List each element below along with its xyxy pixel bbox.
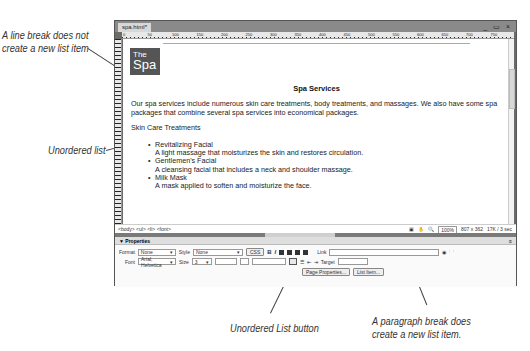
ruler-mark: 150 [196, 32, 221, 37]
spa-logo: The Spa [130, 48, 160, 75]
align-right-icon[interactable] [295, 250, 300, 255]
target-label: Target [321, 259, 335, 265]
format-select[interactable]: None▾ [138, 249, 176, 256]
document-tab[interactable]: spa.html* [118, 23, 151, 32]
list-item-desc: A mask applied to soften and moisturize … [155, 182, 363, 190]
options-menu-icon[interactable]: ≡ [509, 237, 512, 245]
chevron-down-icon: ▾ [170, 259, 173, 265]
section-heading: Skin Care Treatments [131, 123, 201, 132]
style-label: Style [179, 249, 190, 255]
unordered-list: Revitalizing FacialA light massage that … [148, 141, 363, 190]
ordered-list-button[interactable]: ☰ [300, 259, 304, 265]
format-label: Format [119, 249, 135, 255]
ruler-mark: 250 [245, 32, 270, 37]
font-value: Arial, Helvetica [141, 256, 170, 268]
size-label: Size [179, 259, 189, 265]
ruler-mark: 650 [441, 32, 466, 37]
format-value: None [141, 249, 153, 255]
callout-paragraph-line-2: create a new list item. [372, 328, 471, 341]
tab-bar: spa.html* _ ▭ × [115, 21, 516, 32]
ruler-mark: 700 [465, 32, 490, 37]
properties-row-3: Page Properties... List Item... [302, 268, 384, 276]
callout-line-1: A line break does not [2, 29, 89, 42]
callout-line-2: create a new list item [2, 42, 89, 55]
page-properties-button[interactable]: Page Properties... [302, 268, 350, 276]
chevron-down-icon: ▾ [237, 249, 240, 255]
properties-row-2: Font Arial, Helvetica▾ Size 3▾ ☰ ⇤ ⇥ Tar… [125, 258, 368, 265]
chevron-down-icon: ▾ [170, 249, 173, 255]
properties-panel: ▼ Properties≡ Format None▾ Style None▾ C… [115, 237, 516, 287]
properties-header[interactable]: ▼ Properties≡ [115, 237, 516, 245]
window-controls[interactable]: _ ▭ × [483, 21, 512, 32]
properties-title: ▼ Properties [119, 238, 150, 244]
text-color-input[interactable] [252, 258, 286, 265]
ruler-mark: 0 [122, 32, 147, 37]
browse-folder-icon[interactable]: 🗀 [449, 248, 454, 256]
vertical-ruler [115, 39, 122, 224]
callout-paragraph-line-1: A paragraph break does [372, 315, 471, 328]
align-justify-icon[interactable] [303, 250, 308, 255]
ruler-mark: 500 [367, 32, 392, 37]
horizontal-rule [163, 43, 470, 44]
ruler-mark: 400 [318, 32, 343, 37]
ruler-mark: 300 [269, 32, 294, 37]
list-item[interactable]: Milk MaskA mask applied to soften and mo… [148, 174, 363, 190]
logo-big-text: Spa [133, 59, 160, 71]
vertical-scrollbar[interactable] [508, 39, 514, 224]
font-label: Font [125, 259, 135, 265]
bold-button[interactable]: B [267, 249, 271, 255]
text-indent-button[interactable]: ⇥ [314, 259, 318, 265]
callout-unordered-list-button: Unordered List button [230, 322, 319, 335]
ruler-mark: 450 [343, 32, 368, 37]
list-item[interactable]: Gentlemen's FacialA cleansing facial tha… [148, 157, 363, 173]
unordered-list-button[interactable] [289, 258, 297, 265]
link-input[interactable] [329, 249, 439, 256]
intro-paragraph: Our spa services include numerous skin c… [131, 99, 500, 117]
scroll-thumb[interactable] [509, 69, 515, 109]
style-select[interactable]: None▾ [193, 249, 243, 256]
list-item[interactable]: Revitalizing FacialA light massage that … [148, 141, 363, 157]
callout-paragraph-break: A paragraph break does create a new list… [372, 315, 471, 341]
size-value: 3 [195, 259, 198, 265]
ruler-mark: 50 [147, 32, 172, 37]
italic-button[interactable]: I [275, 249, 277, 255]
ruler-mark: 600 [416, 32, 441, 37]
ruler-mark: 200 [220, 32, 245, 37]
design-canvas[interactable]: The Spa Spa Services Our spa services in… [123, 39, 510, 224]
ruler-mark: 550 [392, 32, 417, 37]
font-select[interactable]: Arial, Helvetica▾ [138, 258, 176, 265]
text-outdent-button[interactable]: ⇤ [307, 259, 311, 265]
point-to-file-icon[interactable]: ◉ [442, 249, 446, 255]
size-unit-select[interactable] [215, 258, 237, 265]
list-item-button[interactable]: List Item... [353, 268, 384, 276]
target-select[interactable] [338, 258, 368, 265]
ruler-mark: 100 [171, 32, 196, 37]
size-select[interactable]: 3▾ [192, 258, 212, 265]
css-button[interactable]: CSS [246, 248, 264, 256]
ruler-mark: 750 [490, 32, 515, 37]
page-heading: Spa Services [123, 84, 510, 93]
ruler-numbers: 0 50 100 150 200 250 300 350 400 450 500… [122, 32, 514, 37]
document-window: spa.html* _ ▭ × 0 50 100 150 200 250 300… [114, 20, 517, 286]
chevron-down-icon: ▾ [206, 259, 209, 265]
align-center-icon[interactable] [287, 250, 292, 255]
style-value: None [196, 249, 208, 255]
status-bar: <body> <ul> <li> <font> ▣ ✋ 🔍 100% 807 x… [115, 224, 516, 233]
callout-line-break: A line break does not create a new list … [2, 29, 89, 55]
text-color-swatch[interactable] [240, 258, 249, 265]
ruler-mark: 350 [294, 32, 319, 37]
callout-unordered-list: Unordered list [48, 144, 106, 157]
link-label: Link [317, 249, 326, 255]
align-left-icon[interactable] [279, 250, 284, 255]
